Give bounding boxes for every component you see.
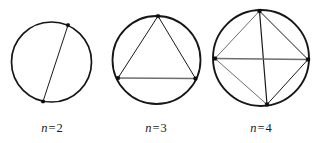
chord-top-right (260, 11, 309, 60)
vertex-right (306, 58, 310, 62)
panel-n4 (213, 9, 310, 106)
vertex-left (213, 57, 217, 61)
chord-apex-right (158, 16, 196, 78)
vertex-top-right (66, 24, 69, 27)
circle-outline (113, 16, 201, 104)
caption-equals: = (47, 121, 56, 135)
chord-apex-left (118, 16, 158, 78)
circle-outline (12, 22, 92, 102)
panel-n2 (12, 22, 92, 103)
chord-left-bottom (215, 59, 267, 105)
caption-value: 2 (57, 121, 63, 135)
vertex-bottom (265, 103, 269, 107)
vertex-bottom-left (116, 76, 119, 79)
panel-n3 (113, 14, 201, 104)
chord-top-left (215, 11, 260, 59)
vertex-apex (156, 14, 159, 17)
vertex-bottom-right (194, 77, 197, 80)
vertex-top (258, 9, 262, 13)
caption-n4: n=4 (243, 122, 279, 135)
caption-equals: = (151, 121, 160, 135)
vertex-bottom-left (41, 100, 44, 103)
chord-left-right (118, 78, 196, 79)
caption-n2: n=2 (34, 122, 70, 135)
circle-chords-figure: n=2 n=3 n=4 (0, 0, 317, 143)
caption-value: 3 (161, 121, 167, 135)
caption-n3: n=3 (138, 122, 174, 135)
chord-top-bottom (260, 11, 268, 105)
caption-value: 4 (266, 121, 272, 135)
chord-0-1 (43, 25, 68, 101)
caption-equals: = (256, 121, 265, 135)
chord-left-right (215, 59, 308, 60)
